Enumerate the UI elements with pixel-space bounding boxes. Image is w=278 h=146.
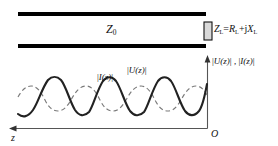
voltage-curve-label: |U(z)| xyxy=(127,66,147,75)
load-impedance-label: ZL=RL+jXL xyxy=(214,24,257,34)
top-conductor-bar xyxy=(18,12,206,16)
vertical-axis-arrowhead xyxy=(205,55,211,63)
axis-u-argument: (z) xyxy=(220,56,230,66)
transmission-line-standing-wave-figure: Z0 ZL=RL+jXL |U(z)| , |I(z)| |U(z)| |I(z… xyxy=(0,0,278,146)
characteristic-impedance-label: Z0 xyxy=(106,23,116,35)
zl-x-subscript: L xyxy=(253,28,257,35)
axis-i-argument: (z) xyxy=(243,56,253,66)
zl-r-subscript: L xyxy=(235,28,239,35)
voltage-magnitude-curve xyxy=(18,77,207,116)
z0-symbol: Z xyxy=(106,22,113,36)
zl-subscript: L xyxy=(220,28,224,35)
current-curve-label: |I(z)| xyxy=(97,73,113,82)
bottom-conductor-bar xyxy=(18,44,206,48)
uz-argument: (z) xyxy=(135,65,145,75)
load-impedance-box xyxy=(204,22,212,40)
z-axis-label: z xyxy=(11,133,15,143)
iz-bar-close: | xyxy=(111,72,113,82)
axis-i-bar-close: | xyxy=(253,56,255,66)
zl-z-symbol: Z xyxy=(214,23,220,34)
horizontal-axis-arrowhead xyxy=(9,125,17,131)
origin-label: O xyxy=(211,129,218,139)
vertical-axis-label: |U(z)| , |I(z)| xyxy=(212,57,255,66)
uz-bar-close: | xyxy=(145,65,147,75)
z0-subscript: 0 xyxy=(113,28,117,37)
iz-argument: (z) xyxy=(102,72,112,82)
